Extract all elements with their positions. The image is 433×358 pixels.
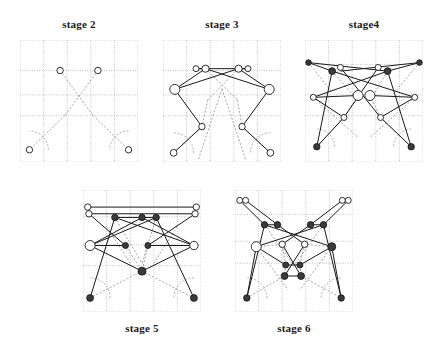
node-n-bot-l [244, 295, 250, 301]
node-n-top-b [139, 214, 145, 220]
panel-stage-3: stage 3 [163, 40, 281, 162]
figure-root: stage 2stage 3stage4stage 5stage 6 [0, 0, 433, 358]
node-n-side-r [412, 94, 418, 100]
node-n-low-l [199, 123, 205, 129]
node-n-top-c [375, 64, 381, 70]
node-n-bot-l [314, 144, 320, 150]
node-n-mid-l [85, 241, 95, 251]
node-n-bot-l [87, 295, 94, 302]
node-n-top-c [235, 65, 242, 72]
node-n-low-r [378, 114, 384, 120]
node-n-side-l [310, 94, 316, 100]
node-n-top-b [202, 65, 209, 72]
node-n-top-a [329, 68, 336, 75]
node-n-low-c [281, 273, 288, 280]
node-n-tip-l [306, 60, 312, 66]
node-n-bot-r [191, 295, 198, 302]
node-n-tip-r [193, 204, 199, 210]
node-n-top-a [193, 66, 199, 72]
node-n-top-d [384, 68, 391, 75]
node-n-low-a [283, 262, 289, 268]
node-n-top-d [320, 222, 326, 228]
node-n-low-r [239, 123, 245, 129]
panel-label-stage-2: stage 2 [20, 18, 138, 30]
node-n-top-c [153, 214, 159, 220]
panel-canvas-stage-5 [83, 190, 201, 312]
panel-label-stage-6: stage 6 [235, 322, 353, 334]
node-n-top-c [307, 222, 313, 228]
node-n-bot-l [170, 149, 177, 156]
node-n-cen-a [279, 241, 285, 247]
node-n-tip-l2 [86, 211, 92, 217]
node-n-mid-l [251, 242, 261, 252]
panel-canvas-stage-3 [163, 40, 281, 162]
node-n-tip-r2 [345, 197, 351, 203]
node-n-top-d [245, 66, 251, 72]
panel-label-stage-4: stage4 [305, 18, 423, 30]
panel-label-stage-5: stage 5 [83, 322, 201, 334]
node-n-bot-right [125, 147, 131, 153]
node-n-tip-l2 [243, 197, 249, 203]
node-n-cen-b [145, 243, 151, 249]
node-n-bot-r [338, 295, 344, 301]
panel-canvas-stage-4 [305, 40, 423, 162]
node-n-mid-r [190, 241, 198, 249]
panel-label-stage-3: stage 3 [163, 18, 281, 30]
node-n-mid-r [328, 243, 336, 251]
node-n-bot-left [26, 147, 32, 153]
node-n-tip-l [237, 197, 243, 203]
node-n-low-b [297, 262, 303, 268]
node-n-tip-r [417, 60, 423, 66]
node-n-top-left [57, 67, 63, 73]
node-n-tip-r2 [192, 211, 198, 217]
panel-stage-2: stage 2 [20, 40, 138, 162]
node-n-top-a [112, 214, 118, 220]
panel-stage-6: stage 6 [235, 190, 353, 312]
node-n-cen-b [301, 241, 307, 247]
node-n-cen-a [353, 91, 363, 101]
node-n-tip-l [85, 204, 91, 210]
node-n-top-b [274, 222, 280, 228]
node-n-mid-l [170, 84, 180, 94]
node-n-bot-r [267, 149, 274, 156]
node-n-top-right [95, 67, 101, 73]
node-n-mid-r [264, 84, 274, 94]
node-n-top-b [337, 64, 343, 70]
panel-stage-5: stage 5 [83, 190, 201, 312]
node-n-cen-b [365, 91, 375, 101]
node-n-bot-r [408, 144, 414, 150]
panel-stage-4: stage4 [305, 40, 423, 162]
node-n-low-d [298, 273, 305, 280]
node-n-low-l [341, 114, 347, 120]
panel-canvas-stage-6 [235, 190, 353, 312]
panel-canvas-stage-2 [20, 40, 138, 162]
node-n-cen-a [122, 243, 128, 249]
node-n-tip-r [339, 197, 345, 203]
node-n-top-a [261, 222, 267, 228]
node-n-bot-mid [138, 267, 146, 275]
